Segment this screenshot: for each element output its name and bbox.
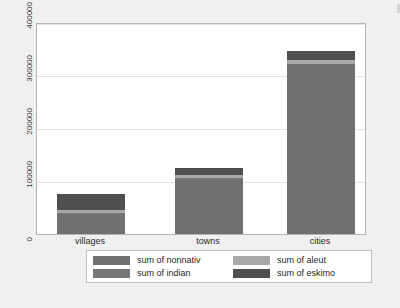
legend-swatch-icon [233,269,270,278]
bar-segment-nonnativ[interactable] [57,214,125,234]
bar-stack-towns[interactable] [175,168,243,234]
legend-label: sum of aleut [277,255,326,265]
bar-segment-eskimo[interactable] [57,194,125,210]
legend-swatch-icon [93,256,130,265]
legend-item-eskimo[interactable]: sum of eskimo [233,268,365,278]
chart-legend: sum of nonnativ sum of aleut sum of indi… [86,250,372,283]
bar-segment-eskimo[interactable] [175,168,243,175]
legend-item-aleut[interactable]: sum of aleut [233,255,365,265]
legend-label: sum of eskimo [277,268,335,278]
legend-swatch-icon [93,269,130,278]
legend-item-indian[interactable]: sum of indian [93,268,225,278]
bar-segment-nonnativ[interactable] [287,64,355,234]
bar-segment-eskimo[interactable] [287,51,355,59]
x-tick-label-villages: villages [56,236,124,246]
y-tick-label: 300000 [25,55,34,82]
x-tick-label-cities: cities [286,236,354,246]
legend-label: sum of indian [137,268,191,278]
bar-stack-cities[interactable] [287,51,355,234]
x-tick-label-towns: towns [174,236,242,246]
y-tick-label: 0 [25,237,34,241]
gridline-400000 [37,24,365,25]
chart-window: 0 100000 200000 300000 400000 [0,0,400,308]
bar-stack-villages[interactable] [57,194,125,234]
y-tick-label: 200000 [25,108,34,135]
y-tick-label: 400000 [25,2,34,29]
legend-label: sum of nonnativ [137,255,201,265]
plot-area [36,23,366,235]
bar-segment-nonnativ[interactable] [175,179,243,234]
legend-item-nonnativ[interactable]: sum of nonnativ [93,255,225,265]
y-axis: 0 100000 200000 300000 400000 [0,23,36,235]
y-tick-label: 100000 [25,161,34,188]
legend-swatch-icon [233,256,270,265]
